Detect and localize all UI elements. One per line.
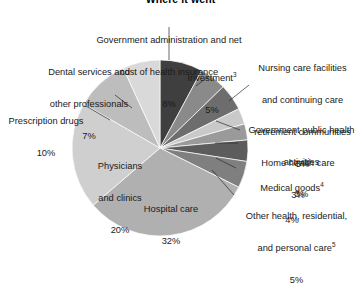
label-line: Investment3	[181, 73, 243, 84]
label-prescription-drugs: Prescription drugs 10%	[7, 95, 85, 180]
label-line: Nursing care facilities	[244, 63, 361, 74]
label-line: Prescription drugs	[7, 116, 85, 127]
label-footnote: 5	[332, 241, 336, 248]
label-line: and personal care5	[232, 243, 361, 254]
label-investment: Investment3 5%	[181, 52, 243, 137]
label-line: Hospital care	[131, 204, 211, 215]
label-footnote: 3	[233, 71, 237, 78]
label-value: 10%	[7, 148, 85, 159]
label-line: Other health, residential,	[232, 211, 361, 222]
label-value: 5%	[181, 105, 243, 116]
label-footnote: 4	[320, 181, 324, 188]
label-text: and personal care	[258, 243, 332, 253]
label-line: Physicians	[84, 161, 156, 172]
label-line: Dental services and	[30, 67, 148, 78]
label-line: Government public health	[242, 125, 361, 136]
label-text: Investment	[187, 73, 232, 83]
label-value: 32%	[131, 236, 211, 247]
label-other-health: Other health, residential, and personal …	[232, 190, 361, 287]
label-value: 5%	[232, 275, 361, 286]
label-hospital-care: Hospital care 32%	[131, 183, 211, 268]
